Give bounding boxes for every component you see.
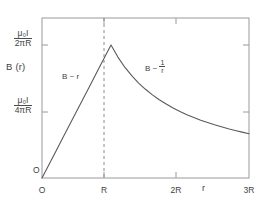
magnetic-field-plot-figure: μ₀I 2πR μ₀I 4πR B (r) r O O R 2R 3R B ~ … xyxy=(0,0,268,203)
origin-marker-label: O xyxy=(33,166,40,175)
plot-frame xyxy=(42,18,249,178)
y-tick-label-half: μ₀I 4πR xyxy=(9,96,37,116)
y-tick-peak-numerator: μ₀I xyxy=(14,29,33,38)
x-tick-label-R: R xyxy=(94,186,114,195)
y-tick-half-numerator: μ₀I xyxy=(14,96,33,105)
y-axis-title: B (r) xyxy=(6,62,25,72)
plot-canvas xyxy=(0,0,268,203)
y-tick-label-peak: μ₀I 2πR xyxy=(9,29,37,49)
x-tick-label-zero: O xyxy=(32,186,52,195)
annotation-inverse-prefix: B ~ xyxy=(145,64,159,73)
x-tick-label-2R: 2R xyxy=(166,186,186,195)
y-tick-half-denominator: 4πR xyxy=(14,105,33,115)
annotation-inverse-numerator: 1 xyxy=(159,59,165,66)
annotation-inverse-region: B ~ 1 r xyxy=(145,59,165,74)
annotation-linear-region: B ~ r xyxy=(62,73,79,81)
x-axis-title: r xyxy=(202,184,205,193)
annotation-inverse-denominator: r xyxy=(159,66,165,74)
y-tick-peak-denominator: 2πR xyxy=(14,38,33,48)
x-tick-label-3R: 3R xyxy=(239,186,259,195)
